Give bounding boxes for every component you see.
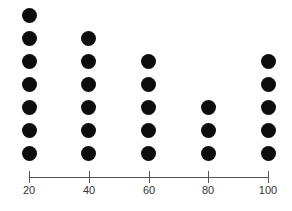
data-dot [201, 100, 216, 115]
data-dot [261, 123, 276, 138]
data-dot [141, 146, 156, 161]
data-dot [81, 100, 96, 115]
x-tick [29, 171, 30, 183]
data-dot [22, 123, 37, 138]
data-dot [22, 100, 37, 115]
data-dot [22, 8, 37, 23]
data-dot [22, 77, 37, 92]
data-dot [201, 146, 216, 161]
data-dot [81, 146, 96, 161]
data-dot [81, 31, 96, 46]
data-dot [22, 31, 37, 46]
x-tick [208, 171, 209, 183]
data-dot [81, 77, 96, 92]
x-tick [149, 171, 150, 183]
x-tick-label: 100 [248, 184, 288, 196]
x-tick-label: 20 [9, 184, 49, 196]
x-tick [89, 171, 90, 183]
data-dot [141, 100, 156, 115]
x-tick-label: 40 [69, 184, 109, 196]
data-dot [81, 123, 96, 138]
data-dot [261, 54, 276, 69]
data-dot [261, 146, 276, 161]
data-dot [22, 146, 37, 161]
data-dot [261, 100, 276, 115]
data-dot [141, 54, 156, 69]
dot-plot: 20406080100 [0, 0, 292, 211]
data-dot [81, 54, 96, 69]
data-dot [201, 123, 216, 138]
x-tick-label: 80 [188, 184, 228, 196]
data-dot [141, 123, 156, 138]
x-tick-label: 60 [129, 184, 169, 196]
data-dot [22, 54, 37, 69]
data-dot [261, 77, 276, 92]
x-tick [268, 171, 269, 183]
data-dot [141, 77, 156, 92]
